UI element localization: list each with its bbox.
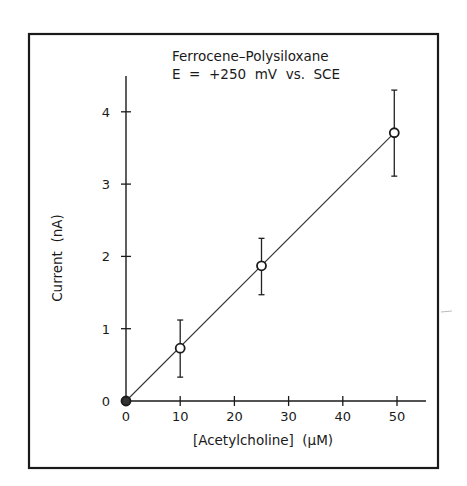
y-tick-label: 3 [102,177,110,192]
data-point [390,128,399,137]
axes [126,76,426,401]
chart-title-line1: Ferrocene–Polysiloxane [172,48,329,64]
x-axis-ticks: 01020304050 [122,396,405,424]
data-point [257,261,266,270]
x-tick-label: 20 [226,409,243,424]
x-tick-label: 0 [122,409,130,424]
plot-area [122,90,399,405]
data-point [122,397,131,406]
y-tick-label: 4 [102,105,110,120]
chart: Ferrocene–Polysiloxane E = +250 mV vs. S… [0,0,467,486]
y-tick-label: 0 [102,394,110,409]
figure-frame [29,34,438,468]
x-tick-label: 40 [335,409,352,424]
data-point [176,344,185,353]
x-tick-label: 10 [172,409,189,424]
x-tick-label: 30 [280,409,297,424]
x-tick-label: 50 [389,409,406,424]
chart-title-line2: E = +250 mV vs. SCE [172,66,340,82]
x-axis-title: [Acetylcholine] (μM) [193,432,333,448]
stray-mark [441,311,452,312]
y-tick-label: 1 [102,322,110,337]
y-tick-label: 2 [102,249,110,264]
y-axis-title: Current (nA) [49,214,65,302]
